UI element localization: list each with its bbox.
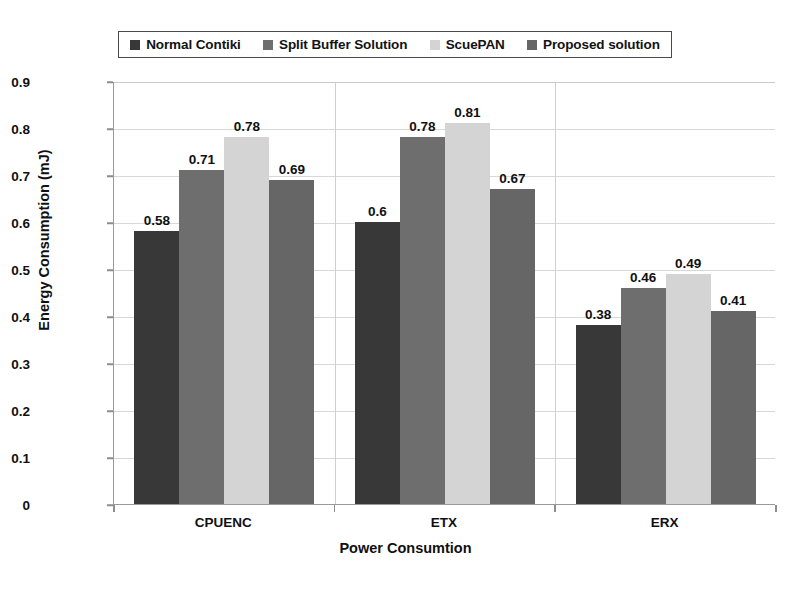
bar[interactable]: 0.71 — [179, 170, 224, 504]
bar[interactable]: 0.78 — [400, 137, 445, 504]
bar[interactable]: 0.41 — [711, 311, 756, 504]
x-axis-category-label: ERX — [651, 515, 679, 530]
bar[interactable]: 0.46 — [621, 288, 666, 504]
y-axis-tick-label: 0.1 — [0, 451, 30, 466]
bar[interactable]: 0.38 — [576, 325, 621, 504]
y-axis-title: Energy Consumption (mJ) — [36, 110, 52, 370]
bar-slot: 0.78 — [224, 82, 269, 504]
bar-slot: 0.46 — [621, 82, 666, 504]
y-axis-tick-label: 0.2 — [0, 404, 30, 419]
y-axis-tick-label: 0.7 — [0, 169, 30, 184]
legend-label: Split Buffer Solution — [279, 37, 407, 52]
bar-slot: 0.49 — [666, 82, 711, 504]
bar-slot: 0.69 — [269, 82, 314, 504]
bar-value-label: 0.6 — [368, 204, 387, 219]
legend-item: Normal Contiki — [130, 37, 241, 52]
legend-label: Normal Contiki — [146, 37, 241, 52]
x-axis-tick-mark — [113, 505, 115, 512]
bar-value-label: 0.38 — [585, 307, 611, 322]
bar-value-label: 0.78 — [409, 119, 435, 134]
legend-swatch-split-buffer-solution — [263, 40, 273, 50]
y-axis-tick-label: 0.3 — [0, 357, 30, 372]
bar-group: 0.60.780.810.67 — [335, 82, 556, 504]
y-axis-tick-label: 0 — [0, 498, 30, 513]
bar-slot: 0.67 — [490, 82, 535, 504]
legend-item: Split Buffer Solution — [263, 37, 407, 52]
legend-item: ScuePAN — [430, 37, 505, 52]
bar-value-label: 0.78 — [234, 119, 260, 134]
bar-slot: 0.6 — [355, 82, 400, 504]
bar-slot: 0.81 — [445, 82, 490, 504]
legend-swatch-normal-contiki — [130, 40, 140, 50]
x-axis-category-label: CPUENC — [195, 515, 252, 530]
y-axis-tick-label: 0.9 — [0, 75, 30, 90]
legend-swatch-proposed-solution — [527, 40, 537, 50]
x-axis-tick-mark — [775, 505, 777, 512]
bar-value-label: 0.49 — [675, 256, 701, 271]
bar[interactable]: 0.69 — [269, 180, 314, 504]
bar-slot: 0.58 — [134, 82, 179, 504]
bar-value-label: 0.69 — [279, 162, 305, 177]
y-axis-tick-label: 0.6 — [0, 216, 30, 231]
y-axis-tick-label: 0.4 — [0, 310, 30, 325]
bar[interactable]: 0.81 — [445, 123, 490, 504]
legend-item: Proposed solution — [527, 37, 660, 52]
bar-slot: 0.71 — [179, 82, 224, 504]
y-axis-tick-label: 0.8 — [0, 122, 30, 137]
bar-group: 0.380.460.490.41 — [555, 82, 776, 504]
bar[interactable]: 0.78 — [224, 137, 269, 504]
bar[interactable]: 0.67 — [490, 189, 535, 504]
bar-slot: 0.78 — [400, 82, 445, 504]
legend-swatch-scuepan — [430, 40, 440, 50]
bar-value-label: 0.81 — [454, 105, 480, 120]
y-axis-tick-label: 0.5 — [0, 263, 30, 278]
bar-value-label: 0.41 — [720, 293, 746, 308]
legend-label: Proposed solution — [543, 37, 660, 52]
plot-area: 0.580.710.780.690.60.780.810.670.380.460… — [113, 82, 775, 505]
bar[interactable]: 0.58 — [134, 231, 179, 504]
bar-value-label: 0.46 — [630, 270, 656, 285]
bar-group: 0.580.710.780.69 — [114, 82, 335, 504]
bar-value-label: 0.58 — [144, 213, 170, 228]
x-axis-tick-mark — [334, 505, 336, 512]
bar-value-label: 0.67 — [499, 171, 525, 186]
bar-slot: 0.38 — [576, 82, 621, 504]
bar-slot: 0.41 — [711, 82, 756, 504]
x-axis-title: Power Consumtion — [0, 540, 811, 556]
bar-value-label: 0.71 — [189, 152, 215, 167]
legend-label: ScuePAN — [446, 37, 505, 52]
chart-legend: Normal Contiki Split Buffer Solution Scu… — [118, 31, 672, 58]
x-axis-category-label: ETX — [431, 515, 457, 530]
bar[interactable]: 0.6 — [355, 222, 400, 504]
x-axis-tick-mark — [554, 505, 556, 512]
bar[interactable]: 0.49 — [666, 274, 711, 504]
